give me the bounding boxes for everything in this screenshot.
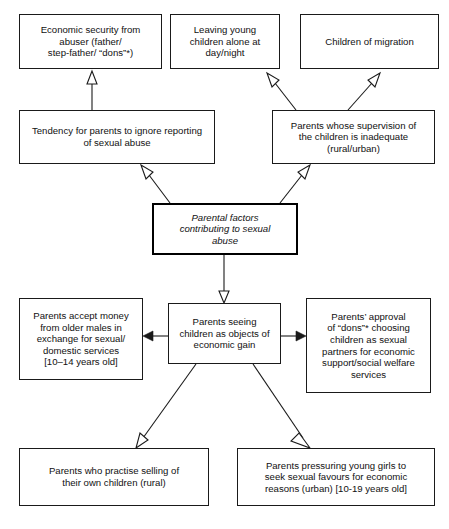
node-parents-selling-children[interactable]: Parents who practise selling of their ow…	[19, 448, 209, 506]
node-economic-security-label: Economic security from abuser (father/ s…	[24, 24, 157, 59]
node-leaving-children-alone-label: Leaving young children alone at day/nigh…	[175, 24, 275, 59]
node-dons-approval[interactable]: Parents’ approval of “dons”* choosing ch…	[306, 298, 431, 393]
node-leaving-children-alone[interactable]: Leaving young children alone at day/nigh…	[170, 14, 280, 69]
node-tendency-ignore-reporting[interactable]: Tendency for parents to ignore reporting…	[19, 110, 215, 164]
node-parents-accept-money[interactable]: Parents accept money from older males in…	[19, 298, 143, 380]
edge-central-to-tendency	[141, 165, 170, 203]
node-children-as-economic-objects-label: Parents seeing children as objects of ec…	[173, 316, 276, 351]
edge-supervision-to-leaving-children	[267, 73, 296, 110]
node-children-as-economic-objects[interactable]: Parents seeing children as objects of ec…	[168, 303, 281, 364]
edge-economic-gain-to-accept-money	[143, 331, 168, 341]
edge-central-to-economic-gain	[219, 255, 229, 303]
node-children-of-migration[interactable]: Children of migration	[300, 14, 439, 69]
node-children-of-migration-label: Children of migration	[305, 36, 434, 48]
node-dons-approval-label: Parents’ approval of “dons”* choosing ch…	[311, 311, 426, 381]
node-inadequate-supervision[interactable]: Parents whose supervision of the childre…	[272, 110, 435, 164]
node-central-parental-factors-label: Parental factors contributing to sexual …	[158, 212, 292, 247]
node-inadequate-supervision-label: Parents whose supervision of the childre…	[277, 120, 430, 155]
edge-central-to-supervision	[280, 165, 310, 203]
edge-economic-gain-to-dons-approval	[281, 331, 306, 341]
node-parents-selling-children-label: Parents who practise selling of their ow…	[24, 465, 204, 488]
edge-supervision-to-children-migration	[348, 73, 380, 110]
node-pressuring-young-girls[interactable]: Parents pressuring young girls to seek s…	[237, 448, 435, 506]
flowchart-diagram: Economic security from abuser (father/ s…	[0, 0, 449, 529]
node-tendency-ignore-reporting-label: Tendency for parents to ignore reporting…	[24, 125, 210, 148]
node-central-parental-factors[interactable]: Parental factors contributing to sexual …	[152, 203, 298, 255]
edge-economic-gain-to-selling-children	[136, 364, 196, 448]
edge-tendency-to-economic-security	[87, 71, 97, 110]
node-pressuring-young-girls-label: Parents pressuring young girls to seek s…	[242, 460, 430, 495]
edge-economic-gain-to-pressuring-girls	[253, 364, 310, 448]
node-parents-accept-money-label: Parents accept money from older males in…	[24, 310, 138, 368]
node-economic-security[interactable]: Economic security from abuser (father/ s…	[19, 14, 162, 69]
